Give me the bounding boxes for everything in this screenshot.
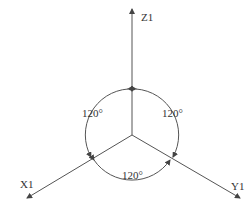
angle-label-bottom: 120° (122, 169, 143, 181)
arc-z-x (85, 89, 128, 157)
angle-label-right: 120° (162, 107, 183, 119)
isometric-axes-diagram: Z1 X1 Y1 120° 120° 120° (0, 0, 248, 206)
y1-axis (132, 135, 240, 198)
x1-label: X1 (20, 178, 33, 190)
angle-label-left: 120° (82, 107, 103, 119)
arc-z-y (136, 89, 179, 157)
y1-label: Y1 (231, 180, 244, 192)
z1-label: Z1 (141, 11, 153, 23)
x1-axis (27, 135, 132, 198)
